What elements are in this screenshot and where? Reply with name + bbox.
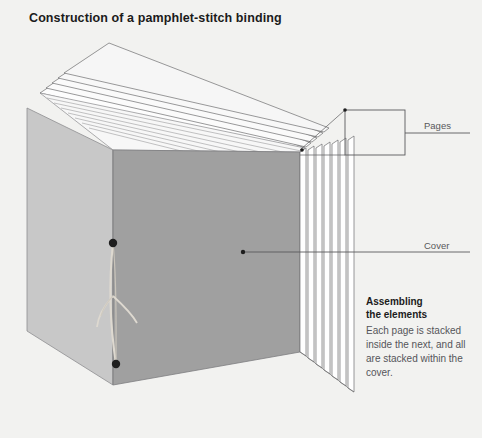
cover-left-panel — [27, 108, 113, 385]
note-body: Each page is stacked inside the next, an… — [366, 324, 470, 380]
cover-right-panel — [113, 150, 300, 385]
note-heading: Assembling the elements — [366, 296, 470, 321]
assembling-note: Assembling the elements Each page is sta… — [366, 296, 470, 380]
page-leaves-right-fan — [300, 136, 354, 392]
label-pages: Pages — [424, 120, 451, 131]
note-heading-line1: Assembling — [366, 296, 423, 307]
note-heading-line2: the elements — [366, 309, 427, 320]
stitch-knot-top — [109, 239, 117, 247]
label-cover: Cover — [424, 240, 449, 251]
illustration-stage: Construction of a pamphlet-stitch bindin… — [0, 0, 482, 438]
stitch-knot-bottom — [112, 360, 120, 368]
